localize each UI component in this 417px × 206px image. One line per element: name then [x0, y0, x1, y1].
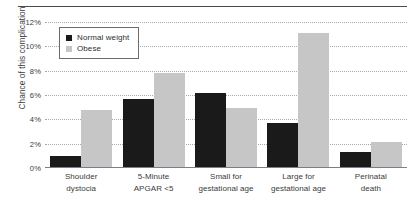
x-axis-tick-labels: Shoulderdystocia5-MinuteAPGAR <5Small fo…: [45, 171, 407, 194]
x-axis-tick-label: Large forgestational age: [262, 171, 334, 194]
legend-swatch-icon: [66, 35, 72, 41]
bar-group: [335, 22, 407, 168]
y-axis-tick-label: 8%: [3, 66, 41, 75]
bar: [298, 33, 329, 168]
legend-label: Obese: [77, 44, 101, 53]
y-axis-tick-label: 6%: [3, 91, 41, 100]
y-axis-tick-label: 12%: [3, 18, 41, 27]
chart-legend: Normal weight Obese: [59, 27, 139, 59]
x-axis-tick-label: Shoulderdystocia: [45, 171, 117, 194]
y-axis-tick-label: 10%: [3, 42, 41, 51]
legend-item-obese: Obese: [66, 43, 129, 54]
legend-swatch-icon: [66, 46, 72, 52]
bar: [371, 142, 402, 168]
bar: [195, 93, 226, 168]
bar: [123, 99, 154, 168]
x-axis-baseline: [45, 167, 407, 168]
x-axis-tick-label: Perinataldeath: [335, 171, 407, 194]
legend-item-normal-weight: Normal weight: [66, 32, 129, 43]
bar-chart: Chance of this complication 12%10%8%6%4%…: [0, 0, 417, 206]
x-axis-tick-label: 5-MinuteAPGAR <5: [117, 171, 189, 194]
bar: [81, 110, 112, 168]
bar: [340, 152, 371, 168]
bar-group: [190, 22, 262, 168]
y-axis-tick-label: 0%: [3, 164, 41, 173]
bar: [226, 108, 257, 168]
bar: [154, 73, 185, 168]
y-axis-tick-label: 4%: [3, 115, 41, 124]
bar: [267, 123, 298, 168]
legend-label: Normal weight: [77, 33, 129, 42]
top-divider-rule: [18, 6, 407, 7]
bar-group: [262, 22, 334, 168]
x-axis-tick-label: Small forgestational age: [190, 171, 262, 194]
y-axis-tick-label: 2%: [3, 139, 41, 148]
